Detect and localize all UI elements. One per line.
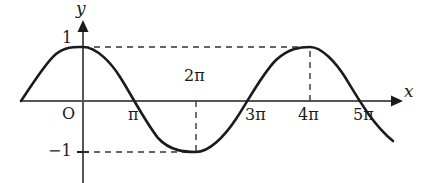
x-tick-label-5pi: 5π (353, 107, 374, 123)
x-axis-arrowhead (391, 96, 403, 107)
y-axis-arrowhead (78, 20, 89, 32)
origin-label: O (62, 106, 75, 122)
trig-graph-figure: y x 1 −1 O π 2π 3π 4π 5π (0, 0, 428, 183)
y-tick-label-1: 1 (62, 30, 72, 46)
x-axis-label: x (404, 83, 414, 100)
y-axis-label: y (76, 0, 86, 17)
x-tick-label-pi: π (128, 107, 139, 123)
y-tick-label-neg-1: −1 (48, 143, 72, 159)
x-tick-label-3pi: 3π (245, 107, 266, 123)
x-axis (20, 96, 403, 107)
cosine-curve (21, 47, 393, 152)
x-tick-label-2pi: 2π (184, 68, 205, 84)
x-tick-label-4pi: 4π (298, 107, 319, 123)
